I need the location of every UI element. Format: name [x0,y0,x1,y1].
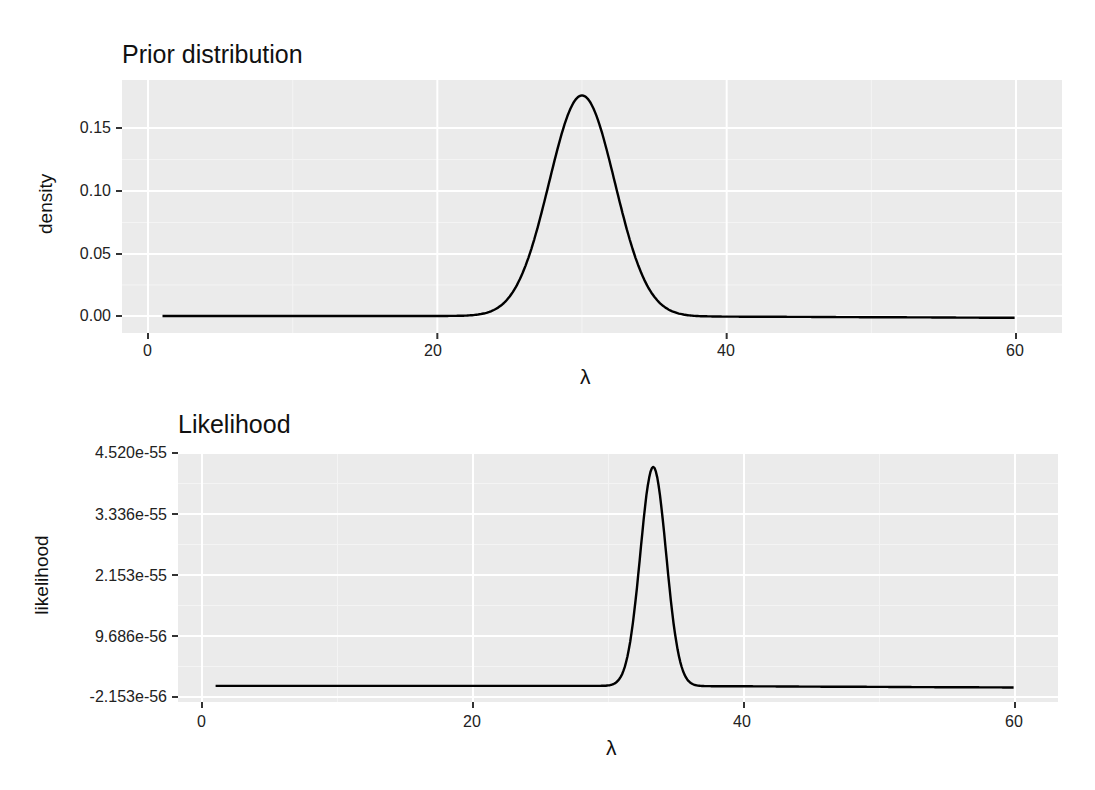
prior-plot-background [122,80,1062,333]
likelihood-plot-background [178,452,1058,702]
chart-canvas [0,0,1095,790]
